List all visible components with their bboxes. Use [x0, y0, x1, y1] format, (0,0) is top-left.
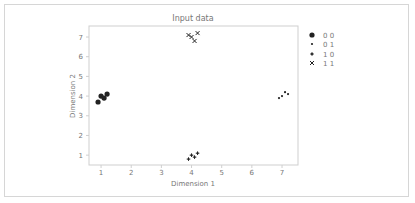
point-plus-marker: [196, 151, 200, 155]
y-tick-label: 2: [79, 132, 83, 140]
y-tick-label: 5: [79, 73, 83, 81]
point-small-dot-marker: [287, 93, 289, 95]
x-axis-label: Dimension 1: [171, 180, 215, 188]
legend-label: 1 1: [323, 60, 334, 68]
y-tick-label: 3: [79, 112, 83, 120]
point-x-marker: [193, 39, 197, 43]
x-tick-label: 5: [219, 169, 223, 177]
point-plus-marker: [187, 157, 191, 161]
legend: 0 00 11 01 1: [309, 32, 334, 68]
point-small-dot-marker: [284, 91, 286, 93]
x-tick-label: 1: [99, 169, 103, 177]
point-large-circle-marker: [95, 99, 100, 104]
x-tick-label: 3: [159, 169, 163, 177]
y-tick-label: 4: [79, 93, 84, 101]
x-tick-label: 7: [280, 169, 284, 177]
legend-label: 0 1: [323, 41, 334, 49]
point-small-dot-marker: [278, 97, 280, 99]
x-tick-label: 2: [129, 169, 133, 177]
data-points: [95, 31, 289, 161]
point-large-circle-marker: [104, 92, 109, 97]
y-axis-label: Dimension 2: [69, 74, 77, 118]
y-tick-label: 7: [79, 34, 83, 42]
legend-x-icon: [310, 61, 314, 65]
point-plus-marker: [193, 155, 197, 159]
y-tick-label: 6: [79, 53, 84, 61]
point-small-dot-marker: [281, 95, 283, 97]
y-tick-label: 1: [79, 152, 83, 160]
x-axis: 1234567: [99, 165, 284, 177]
legend-label: 1 0: [323, 51, 334, 59]
x-tick-label: 4: [189, 169, 194, 177]
legend-large-circle-icon: [309, 32, 314, 37]
point-plus-marker: [190, 153, 194, 157]
legend-small-dot-icon: [311, 43, 313, 45]
chart-title: Input data: [172, 14, 213, 23]
point-x-marker: [196, 31, 200, 35]
axes-frame: [89, 26, 298, 165]
scatter-chart: Input data 1234567 1234567 Dimension 1 D…: [0, 0, 415, 203]
legend-label: 0 0: [323, 32, 334, 40]
legend-plus-icon: [310, 52, 314, 56]
y-axis: 1234567: [79, 34, 89, 160]
x-tick-label: 6: [250, 169, 255, 177]
